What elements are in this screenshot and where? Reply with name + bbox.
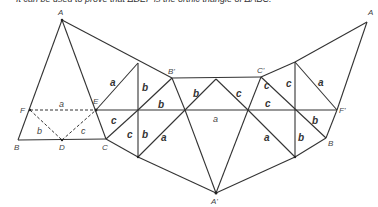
side-label: c bbox=[111, 115, 117, 126]
side-label: b bbox=[193, 88, 199, 99]
vertex-label-C: C bbox=[102, 143, 108, 152]
side-label: a bbox=[264, 132, 270, 143]
side-label: c bbox=[127, 129, 133, 140]
side-label: b bbox=[298, 132, 304, 143]
side-label: c bbox=[265, 98, 271, 109]
side-label: b bbox=[312, 115, 318, 126]
vertex-label-B: B bbox=[14, 143, 20, 152]
vertex-label-A: A bbox=[57, 8, 63, 17]
side-label: a bbox=[161, 132, 167, 143]
side-label-dashed-a: a bbox=[59, 99, 64, 109]
vertex-label-A-prime: A' bbox=[210, 197, 218, 206]
vertex-label-A-right: A bbox=[367, 8, 373, 17]
side-label: a bbox=[110, 77, 116, 88]
side-label-dashed-b: b bbox=[37, 126, 42, 136]
geometry-diagram: A A A' B B B' C C' D E F F' a b c a b b … bbox=[0, 0, 378, 207]
side-label: c bbox=[286, 78, 292, 89]
side-label-dashed-c: c bbox=[81, 126, 86, 136]
vertex-label-E: E bbox=[93, 97, 99, 106]
side-label: c bbox=[264, 80, 270, 91]
vertex-label-B-right: B bbox=[328, 139, 334, 148]
side-label: a bbox=[213, 114, 218, 124]
side-label: b bbox=[158, 99, 164, 110]
side-label: b bbox=[142, 82, 148, 93]
vertex-label-D: D bbox=[59, 143, 65, 152]
side-label: b bbox=[142, 129, 148, 140]
side-label: a bbox=[318, 77, 324, 88]
side-label: c bbox=[236, 88, 242, 99]
vertex-label-C-prime: C' bbox=[257, 66, 265, 75]
solid-lines bbox=[18, 20, 367, 193]
vertex-label-F-prime: F' bbox=[339, 106, 346, 115]
vertex-label-B-prime: B' bbox=[168, 67, 175, 76]
vertex-label-F: F bbox=[20, 106, 26, 115]
